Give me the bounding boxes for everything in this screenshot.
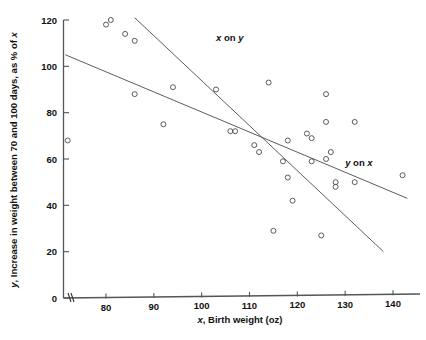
data-point xyxy=(266,80,271,85)
annotation-y-on-x: y on x xyxy=(344,157,373,168)
data-point xyxy=(161,122,166,127)
data-points xyxy=(65,18,405,238)
data-point xyxy=(214,87,219,92)
scatter-plot: 8090100110120130140 020406080100120 x on… xyxy=(0,0,426,340)
y-tick-label-120: 120 xyxy=(41,15,57,26)
data-point xyxy=(280,159,285,164)
data-point xyxy=(132,38,137,43)
y-axis-title: y, Increase in weight between 70 and 100… xyxy=(8,32,19,289)
x-axis-title: x, Birth weight (oz) xyxy=(197,314,283,325)
data-point xyxy=(65,138,70,143)
data-point xyxy=(233,129,238,134)
data-point xyxy=(271,228,276,233)
data-point xyxy=(132,92,137,97)
y-tick-label-20: 20 xyxy=(46,246,57,257)
data-point xyxy=(309,159,314,164)
y-tick-label-0: 0 xyxy=(52,293,57,304)
y-axis-ticks: 020406080100120 xyxy=(41,15,69,304)
data-point xyxy=(309,136,314,141)
regression-lines xyxy=(65,18,407,252)
data-point xyxy=(252,143,257,148)
y-tick-label-100: 100 xyxy=(41,61,57,72)
x-tick-label-140: 140 xyxy=(385,298,401,309)
data-point xyxy=(228,129,233,134)
y-tick-label-60: 60 xyxy=(46,154,57,165)
data-point xyxy=(108,18,113,23)
y-tick-label-40: 40 xyxy=(46,200,57,211)
data-point xyxy=(290,198,295,203)
data-point xyxy=(104,22,109,27)
x-axis-ticks: 8090100110120130140 xyxy=(101,290,401,312)
x-tick-label-90: 90 xyxy=(149,301,160,312)
data-point xyxy=(123,31,128,36)
x-tick-label-110: 110 xyxy=(242,300,257,311)
chart-container: 8090100110120130140 020406080100120 x on… xyxy=(0,0,426,340)
data-point xyxy=(285,138,290,143)
data-point xyxy=(324,119,329,124)
annotation-x-on-y: x on y xyxy=(215,32,244,43)
data-point xyxy=(257,150,262,155)
x-tick-label-80: 80 xyxy=(101,302,112,313)
data-point xyxy=(304,131,309,136)
data-point xyxy=(324,92,329,97)
line-annotations: x on yy on x xyxy=(215,32,373,168)
y-tick-label-80: 80 xyxy=(46,107,57,118)
data-point xyxy=(324,157,329,162)
data-point xyxy=(352,119,357,124)
regression-line-x-on-y xyxy=(135,18,384,252)
data-point xyxy=(352,180,357,185)
data-point xyxy=(285,175,290,180)
x-tick-label-100: 100 xyxy=(194,300,210,311)
data-point xyxy=(400,173,405,178)
x-tick-label-130: 130 xyxy=(337,299,353,310)
data-point xyxy=(328,150,333,155)
data-point xyxy=(319,233,324,238)
regression-line-y-on-x xyxy=(65,55,407,199)
x-tick-label-120: 120 xyxy=(289,299,305,310)
x-axis-line xyxy=(64,294,421,298)
data-point xyxy=(170,85,175,90)
